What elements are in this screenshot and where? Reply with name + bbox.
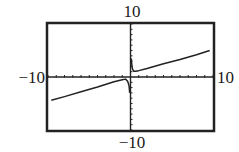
y-min-label: −10: [119, 133, 146, 152]
curve-left-branch: [51, 79, 129, 100]
y-max-label: 10: [124, 2, 141, 21]
curve-right-branch: [131, 51, 209, 72]
graph-window: 10 −10 −10 10: [0, 0, 239, 152]
x-min-label: −10: [18, 68, 45, 87]
x-max-label: 10: [217, 68, 234, 87]
